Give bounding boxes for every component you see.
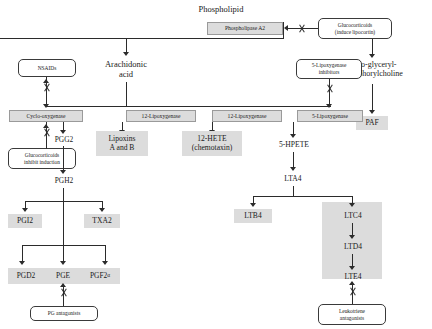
node-5-lipoxygenase: 5-Lipoxygenase <box>297 110 363 122</box>
node-pgh2: PGH2 <box>46 175 82 187</box>
edge-membrane-riser <box>283 22 284 39</box>
node-pgi2: PGI2 <box>8 214 42 228</box>
arrowhead-lta4 <box>290 167 296 171</box>
edge-arachidonic-bus <box>46 106 331 107</box>
arrowhead-pg-antagonists <box>60 283 66 287</box>
node-nsaids: NSAIDs <box>18 59 76 77</box>
arrowhead-ltd4 <box>349 235 355 239</box>
arrowhead-paf <box>369 110 375 114</box>
arrowhead-pgi2 <box>22 208 28 212</box>
node-lipoxins: Lipoxins A and B <box>96 131 148 156</box>
inhibition-mark-cox <box>42 83 51 92</box>
gluco-inhibit-line1: Glucocorticoids <box>25 152 59 159</box>
arrowhead-cox-induction <box>43 124 49 128</box>
lox5-inhibitors-line1: 5-Lipoxygenase <box>312 62 347 69</box>
node-ltb4: LTB4 <box>234 209 272 223</box>
edge-lyso-to-paf <box>372 84 373 112</box>
arrowhead-ltb4 <box>250 203 256 207</box>
glucocorticoids-line2: (induce lipocortin) <box>335 29 375 36</box>
hete-line2: (chemotaxin) <box>192 144 232 153</box>
node-pgf2-alpha: PGF2α <box>80 268 120 284</box>
inhibition-mark-leukotriene <box>348 287 357 296</box>
inhibition-mark-pg <box>59 288 68 297</box>
node-lta4: LTA4 <box>275 173 311 185</box>
inhibition-mark-cox-induction <box>42 128 51 137</box>
arrowhead-pgd2 <box>19 261 25 265</box>
node-pg-antagonists: PG antagonists <box>30 306 98 321</box>
edge-arachidonic-stem <box>126 82 127 107</box>
edge-pgh2-through <box>63 201 64 246</box>
node-phospholipid: Phospholipid <box>176 4 266 16</box>
node-ltc4: LTC4 <box>334 209 372 223</box>
node-phospholipase-a2: Phospholipase A2 <box>207 22 283 35</box>
pgf2-subscript: α <box>107 273 110 279</box>
node-leukotriene-antagonists: Leukotriene antagonists <box>318 304 386 325</box>
edge-membrane-baseline <box>0 38 283 39</box>
node-12-lipoxygenase: 12-Lipoxygenase <box>212 110 282 122</box>
pgf2-label: PGF2 <box>90 272 107 280</box>
node-5-lipoxygenase-inhibitors: 5-Lipoxygenase inhibitors <box>296 59 362 79</box>
arachidonic-line2: acid <box>119 70 133 80</box>
arrowhead-pge <box>60 261 66 265</box>
arrowhead-pgh2 <box>60 170 66 174</box>
lipoxins-line2: A and B <box>110 144 135 153</box>
edge-pgg2-to-pgh2 <box>63 146 64 172</box>
lox5-inhibitors-line2: inhibitors <box>319 69 340 76</box>
arrowhead-gluco-pla2 <box>284 25 288 31</box>
node-txa2: TXA2 <box>84 214 120 228</box>
node-pgd2: PGD2 <box>8 268 44 284</box>
inhibition-mark-lox5 <box>325 84 334 93</box>
arrowhead-ltc4 <box>349 203 355 207</box>
arrowhead-arachidonic <box>123 52 129 56</box>
node-pge: PGE <box>49 268 77 284</box>
node-12-hete: 12-HETE (chemotaxin) <box>182 131 242 156</box>
node-glucocorticoids-induce-lipocortin: Glucocorticoids (induce lipocortin) <box>318 18 392 39</box>
edge-pgh2-stem <box>63 188 64 202</box>
node-arachidonic-acid: Arachidonic acid <box>96 58 156 82</box>
arrowhead-txa2 <box>99 208 105 212</box>
arrowhead-leukotriene-antagonists <box>349 281 355 285</box>
arrowhead-cox-up <box>43 79 49 83</box>
edge-lyso-corner <box>372 39 373 40</box>
node-glucocorticoids-inhibit-induction: Glucocorticoids inhibit induction <box>8 148 76 169</box>
leukotriene-ant-line1: Leukotriene <box>339 308 365 315</box>
gluco-inhibit-line2: inhibit induction <box>24 159 60 166</box>
node-cyclooxygenase: Cyclo-oxygenase <box>9 110 83 122</box>
node-15-lipoxygenase: 12-Lipoxygenase <box>126 110 196 122</box>
edge-lta4-bus <box>253 196 352 197</box>
node-5-hpete: 5-HPETE <box>268 139 320 151</box>
pathway-diagram: Phospholipid Phospholipase A2 Glucocorti… <box>0 0 432 329</box>
glucocorticoids-line1: Glucocorticoids <box>338 22 372 29</box>
node-ltd4: LTD4 <box>334 240 372 254</box>
arrowhead-pgf2a <box>102 261 108 265</box>
arrowhead-hpete <box>290 134 296 138</box>
node-pgg2: PGG2 <box>46 134 82 146</box>
leukotriene-ant-line2: antagonists <box>340 315 364 322</box>
inhibition-mark-pla2 <box>297 24 306 33</box>
